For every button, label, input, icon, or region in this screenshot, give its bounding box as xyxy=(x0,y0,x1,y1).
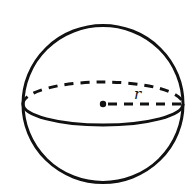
sphere-svg: r xyxy=(0,0,193,188)
sphere-diagram: r xyxy=(0,0,193,188)
radius-label: r xyxy=(134,85,142,103)
equator-back-arc xyxy=(23,82,183,104)
center-point xyxy=(100,101,106,107)
